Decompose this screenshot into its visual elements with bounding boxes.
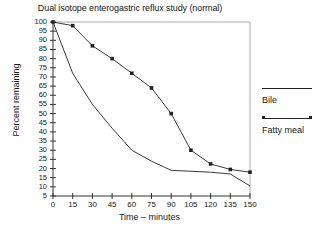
x-tick-label: 45 (104, 201, 120, 209)
y-tick-label: 5 (25, 192, 47, 200)
data-point-marker (209, 162, 213, 166)
data-point-marker (248, 170, 252, 174)
series-lines (53, 22, 250, 186)
chart-figure: Dual isotope enterogastric reflux study … (0, 0, 323, 228)
data-point-marker (150, 86, 154, 90)
x-tick-label: 105 (183, 201, 199, 209)
y-tick-label: 30 (25, 146, 47, 154)
y-tick-label: 10 (25, 183, 47, 191)
legend-entry-fatty-meal: Fatty meal (262, 114, 322, 135)
y-tick-label: 20 (25, 165, 47, 173)
y-tick-label: 35 (25, 137, 47, 145)
x-tick-label: 0 (45, 201, 61, 209)
y-tick-label: 70 (25, 73, 47, 81)
data-point-marker (51, 20, 55, 24)
y-tick-label: 90 (25, 36, 47, 44)
legend-entry-bile: Bile (262, 84, 322, 105)
x-tick-label: 15 (65, 201, 81, 209)
x-tick-label: 150 (242, 201, 258, 209)
legend-label-fatty-meal: Fatty meal (262, 125, 322, 135)
data-point-marker (169, 112, 173, 116)
y-tick-label: 60 (25, 91, 47, 99)
y-tick-label: 100 (25, 18, 47, 26)
y-tick-label: 55 (25, 100, 47, 108)
y-tick-label: 95 (25, 27, 47, 35)
legend-swatch-marker-line-icon (262, 114, 312, 123)
legend-label-bile: Bile (262, 95, 322, 105)
y-tick-label: 25 (25, 155, 47, 163)
y-tick-label: 50 (25, 110, 47, 118)
series-line-fatty-meal (53, 22, 250, 172)
x-tick-label: 90 (163, 201, 179, 209)
data-point-marker (189, 148, 193, 152)
data-point-marker (71, 24, 75, 28)
series-line-bile (53, 22, 250, 186)
chart-legend: Bile Fatty meal (262, 84, 322, 144)
y-tick-label: 85 (25, 45, 47, 53)
series-markers (51, 20, 252, 174)
data-point-marker (110, 57, 114, 61)
x-tick-label: 120 (203, 201, 219, 209)
data-point-marker (130, 71, 134, 75)
x-tick-label: 30 (84, 201, 100, 209)
y-tick-label: 15 (25, 174, 47, 182)
data-point-marker (91, 44, 95, 48)
y-tick-label: 80 (25, 55, 47, 63)
x-tick-label: 135 (222, 201, 238, 209)
x-tick-label: 60 (124, 201, 140, 209)
y-tick-label: 65 (25, 82, 47, 90)
y-tick-label: 40 (25, 128, 47, 136)
axes (53, 22, 250, 196)
y-tick-label: 45 (25, 119, 47, 127)
data-point-marker (229, 168, 233, 172)
legend-swatch-line-icon (262, 84, 312, 93)
x-tick-label: 75 (144, 201, 160, 209)
y-tick-label: 75 (25, 64, 47, 72)
